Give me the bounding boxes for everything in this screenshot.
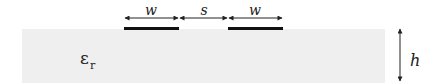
left-strip-conductor — [124, 27, 179, 30]
substrate — [22, 29, 385, 83]
permittivity-symbol: ε — [80, 48, 89, 68]
coplanar-strip-diagram: w s w h ε r — [0, 0, 441, 84]
height-label: h — [410, 51, 420, 70]
right-strip-conductor — [228, 27, 283, 30]
left-width-label: w — [145, 2, 157, 18]
right-width-label: w — [249, 2, 261, 18]
gap-label: s — [200, 2, 207, 18]
permittivity-subscript: r — [90, 59, 96, 72]
diagram-canvas: w s w h ε r — [0, 0, 441, 84]
